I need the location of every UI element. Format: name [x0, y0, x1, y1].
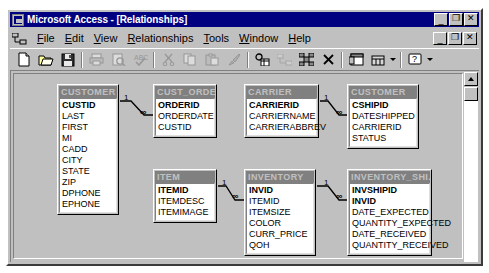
- scroll-thumb[interactable]: [464, 87, 478, 101]
- clear-layout-button[interactable]: [317, 50, 339, 70]
- table-field[interactable]: DPHONE: [62, 188, 116, 199]
- table-title: CUSTOMER: [59, 86, 117, 98]
- table-field-list: ITEMIDITEMDESCITEMIMAGE: [155, 183, 215, 221]
- menu-window[interactable]: Window: [234, 31, 283, 45]
- primary-key-field[interactable]: CARRIERID: [249, 100, 316, 111]
- table-field[interactable]: LAST: [62, 111, 116, 122]
- table-field[interactable]: ZIP: [62, 177, 116, 188]
- vertical-scrollbar[interactable]: [464, 72, 478, 262]
- table-window-customer-right[interactable]: CUSTOMERCSHIPIDDATESHIPPEDCARRIERIDSTATU…: [347, 84, 419, 149]
- scroll-track[interactable]: [464, 101, 478, 262]
- child-minimize-button[interactable]: _: [433, 32, 447, 45]
- table-field[interactable]: CARRIERID: [352, 122, 416, 133]
- table-field[interactable]: DATE_EXPECTED: [352, 207, 429, 218]
- table-field[interactable]: COLOR: [249, 218, 313, 229]
- table-window-item[interactable]: ITEMITEMIDITEMDESCITEMIMAGE: [153, 169, 217, 223]
- database-window-button[interactable]: [345, 50, 367, 70]
- table-field[interactable]: QOH: [249, 240, 313, 251]
- print-preview-icon: [111, 53, 126, 66]
- database-window-icon: [349, 53, 364, 66]
- show-all-relationships-button[interactable]: [295, 50, 317, 70]
- save-button[interactable]: [57, 50, 79, 70]
- table-field-list: CARRIERIDCARRIERNAMECARRIERABBREV: [246, 98, 317, 136]
- table-field[interactable]: CARRIERNAME: [249, 111, 316, 122]
- cardinality-many-label: ∞: [336, 108, 342, 116]
- table-field[interactable]: EPHONE: [62, 199, 116, 210]
- table-window-inventory-ship[interactable]: INVENTORY_SHI...INVSHIPIDINVIDDATE_EXPEC…: [347, 169, 432, 256]
- minimize-button[interactable]: _: [434, 13, 448, 26]
- primary-key-field[interactable]: ITEMID: [158, 185, 214, 196]
- help-question-icon: ?: [408, 53, 422, 66]
- open-database-button[interactable]: [35, 50, 57, 70]
- new-database-button[interactable]: [13, 50, 35, 70]
- table-field[interactable]: MI: [62, 133, 116, 144]
- table-field[interactable]: STATE: [62, 166, 116, 177]
- table-field[interactable]: ITEMID: [249, 196, 313, 207]
- title-bar[interactable]: Microsoft Access - [Relationships] _ ❐ ✕: [10, 12, 479, 27]
- help-button[interactable]: ?: [404, 50, 426, 70]
- close-button[interactable]: ✕: [464, 13, 478, 26]
- chevron-down-icon: [390, 57, 397, 62]
- scroll-up-button[interactable]: [464, 72, 478, 86]
- new-object-dropdown-arrow[interactable]: [389, 50, 398, 70]
- table-window-carrier[interactable]: CARRIERCARRIERIDCARRIERNAMECARRIERABBREV: [244, 84, 319, 138]
- table-field[interactable]: CUSTID: [158, 122, 214, 133]
- menu-view[interactable]: View: [89, 31, 123, 45]
- table-window-inventory[interactable]: INVENTORYINVIDITEMIDITEMSIZECOLORCURR_PR…: [244, 169, 316, 256]
- table-field[interactable]: CARRIERABBREV: [249, 122, 316, 133]
- table-field[interactable]: DATESHIPPED: [352, 111, 416, 122]
- minimize-label: _: [438, 15, 443, 25]
- table-field[interactable]: QUANTITY_RECEIVED: [352, 240, 429, 251]
- spelling-button: ABC: [129, 50, 151, 70]
- help-dropdown-arrow[interactable]: [426, 50, 435, 70]
- primary-key-field[interactable]: ORDERID: [158, 100, 214, 111]
- relationship-line-carrier-to-customer[interactable]: [320, 101, 347, 115]
- menu-edit[interactable]: Edit: [60, 31, 89, 45]
- table-field[interactable]: CADD: [62, 144, 116, 155]
- maximize-button[interactable]: ❐: [449, 13, 463, 26]
- primary-key-field[interactable]: CUSTID: [62, 100, 116, 111]
- child-minimize-label: _: [437, 34, 442, 44]
- table-field[interactable]: ORDERDATE: [158, 111, 214, 122]
- relationship-line-item-to-inventory[interactable]: [218, 186, 244, 200]
- child-close-button[interactable]: ✕: [463, 32, 477, 45]
- table-field[interactable]: STATUS: [352, 133, 416, 144]
- child-restore-button[interactable]: ❐: [448, 32, 462, 45]
- table-field[interactable]: ITEMSIZE: [249, 207, 313, 218]
- svg-text:?: ?: [412, 54, 417, 64]
- table-field-list: CSHIPIDDATESHIPPEDCARRIERIDSTATUS: [349, 98, 417, 147]
- relationships-canvas[interactable]: CUSTOMERCUSTIDLASTFIRSTMICADDCITYSTATEZI…: [13, 73, 463, 259]
- table-title: INVENTORY_SHI...: [349, 171, 430, 183]
- access-main-window: Microsoft Access - [Relationships] _ ❐ ✕…: [6, 8, 483, 266]
- primary-key-field[interactable]: CSHIPID: [352, 100, 416, 111]
- table-window-customer-left[interactable]: CUSTOMERCUSTIDLASTFIRSTMICADDCITYSTATEZI…: [57, 84, 119, 215]
- table-field[interactable]: FIRST: [62, 122, 116, 133]
- table-field[interactable]: QUANTITY_EXPECTED: [352, 218, 429, 229]
- mdi-child-controls: _ ❐ ✕: [433, 32, 477, 45]
- primary-key-field[interactable]: INVSHIPID: [352, 185, 429, 196]
- clipboard-paste-icon: [205, 53, 219, 66]
- menu-tools[interactable]: Tools: [198, 31, 234, 45]
- table-field-list: INVIDITEMIDITEMSIZECOLORCURR_PRICEQOH: [246, 183, 314, 254]
- printer-icon: [89, 53, 104, 66]
- table-field[interactable]: CURR_PRICE: [249, 229, 313, 240]
- relationship-line-inventory-to-inventoryship[interactable]: [317, 186, 347, 200]
- print-preview-button: [107, 50, 129, 70]
- menu-relationships[interactable]: Relationships: [122, 31, 198, 45]
- primary-key-field[interactable]: INVID: [352, 196, 429, 207]
- scissors-icon: [162, 53, 175, 66]
- new-object-button[interactable]: [367, 50, 389, 70]
- menu-help[interactable]: Help: [283, 31, 316, 45]
- menu-file[interactable]: File: [32, 31, 60, 45]
- table-field[interactable]: DATE_RECEIVED: [352, 229, 429, 240]
- table-window-cust-order[interactable]: CUST_ORDERORDERIDORDERDATECUSTID: [153, 84, 217, 138]
- relationship-line-customer-to-custorder[interactable]: [120, 101, 153, 115]
- show-table-button[interactable]: [251, 50, 273, 70]
- table-field[interactable]: ITEMDESC: [158, 196, 214, 207]
- table-field[interactable]: ITEMIMAGE: [158, 207, 214, 218]
- table-field[interactable]: CITY: [62, 155, 116, 166]
- print-button: [85, 50, 107, 70]
- primary-key-field[interactable]: INVID: [249, 185, 313, 196]
- mdi-client-area: CUSTOMERCUSTIDLASTFIRSTMICADDCITYSTATEZI…: [10, 70, 479, 262]
- table-title: ITEM: [155, 171, 215, 183]
